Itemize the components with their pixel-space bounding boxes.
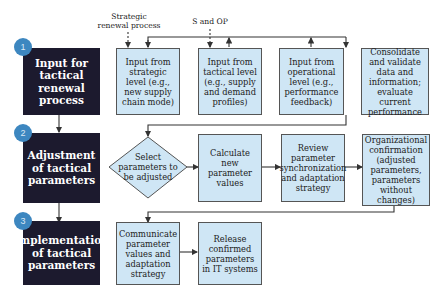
phase-2-badge: 2 [14,124,32,142]
box-consolidate: Consolidate and validate data and inform… [361,48,429,115]
box-input-strategic-label: Input from strategic level (e.g., new su… [119,57,177,107]
phase-3-label: Implementation of tactical parameters [14,234,109,272]
box-release: Release confirmed parameters in IT syste… [198,222,262,285]
box-input-operational: Input from operational level (e.g., perf… [279,48,344,115]
phase-2-label: Adjustment of tactical parameters [25,149,98,187]
diamond-select-parameters-label: Select parameters to be adjusted [118,150,178,184]
phase-1-badge: 1 [14,38,32,56]
phase-1-block: Input for tactical renewal process [23,48,100,115]
box-input-strategic: Input from strategic level (e.g., new su… [116,48,180,115]
box-calculate-label: Calculate new parameter values [201,148,259,188]
phase-3-badge: 3 [14,212,32,230]
phase-2-block: Adjustment of tactical parameters [23,133,100,203]
box-review-label: Review parameter synchronization and ada… [280,143,347,193]
phase-3-block: Implementation of tactical parameters [23,221,100,285]
box-release-label: Release confirmed parameters in IT syste… [201,234,259,274]
box-review: Review parameter synchronization and ada… [281,134,345,202]
box-input-operational-label: Input from operational level (e.g., perf… [282,57,341,107]
box-input-tactical-label: Input from tactical level (e.g., supply … [201,57,259,107]
annotation-s-and-op: S and OP [190,17,230,26]
box-input-tactical: Input from tactical level (e.g., supply … [198,48,262,115]
box-organizational-confirmation-label: Organizational confirmation (adjusted pa… [365,135,427,205]
phase-2-number: 2 [20,128,25,138]
box-communicate: Communicate parameter values and adaptat… [116,222,180,285]
box-calculate: Calculate new parameter values [198,134,262,202]
phase-1-number: 1 [20,42,25,52]
box-communicate-label: Communicate parameter values and adaptat… [119,229,177,279]
annotation-strategic-renewal: Strategic renewal process [96,12,162,30]
phase-3-number: 3 [20,216,25,226]
box-organizational-confirmation: Organizational confirmation (adjusted pa… [362,134,430,206]
box-consolidate-label: Consolidate and validate data and inform… [364,47,426,117]
phase-1-label: Input for tactical renewal process [25,57,98,107]
